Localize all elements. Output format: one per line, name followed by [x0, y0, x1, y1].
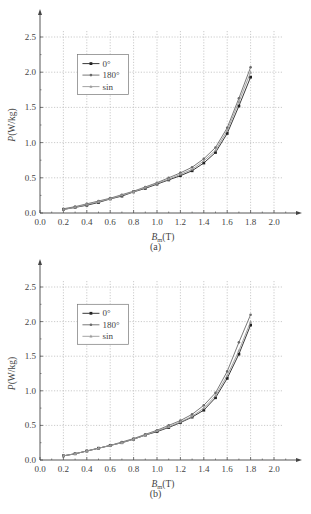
x-tick-label: 1.4 [198, 464, 210, 474]
circle-marker-icon [90, 324, 93, 327]
y-axis-arrow-icon [38, 259, 42, 265]
square-marker-icon [90, 62, 93, 65]
x-tick-label: 0.4 [81, 217, 93, 227]
legend: 0°180°sin [77, 55, 128, 95]
y-tick-label: 2.5 [25, 32, 37, 42]
legend-entry: 180° [102, 70, 120, 80]
legend-entry: 0° [102, 308, 111, 318]
x-tick-label: 2.0 [268, 464, 280, 474]
x-tick-label: 1.8 [245, 464, 257, 474]
x-tick-label: 1.6 [222, 217, 234, 227]
y-tick-label: 2.0 [25, 317, 37, 327]
chart-panel-b: 0.00.20.40.60.81.01.21.41.61.82.00.00.51… [0, 256, 311, 514]
y-tick-label: 1.0 [25, 386, 37, 396]
caption-b: (b) [0, 488, 311, 499]
x-tick-label: 0.8 [128, 217, 140, 227]
y-tick-label: 1.5 [25, 102, 37, 112]
legend-entry: sin [102, 331, 113, 341]
legend: 0°180°sin [77, 304, 128, 344]
x-tick-label: 2.0 [268, 217, 280, 227]
x-tick-label: 1.8 [245, 217, 257, 227]
axes: 0.00.20.40.60.81.01.21.41.61.82.00.00.51… [7, 9, 302, 243]
x-tick-label: 1.4 [198, 217, 210, 227]
plot-area: 0.00.20.40.60.81.01.21.41.61.82.00.00.51… [0, 256, 311, 514]
x-tick-label: 0.2 [58, 464, 69, 474]
y-axis-label: P(W/kg) [7, 108, 18, 142]
caption-a: (a) [0, 241, 311, 252]
x-tick-label: 0.0 [34, 464, 46, 474]
y-tick-label: 1.5 [25, 351, 37, 361]
y-tick-label: 0.5 [25, 173, 37, 183]
plot-area: 0.00.20.40.60.81.01.21.41.61.82.00.00.51… [0, 0, 311, 256]
y-tick-label: 0.5 [25, 420, 37, 430]
y-axis-arrow-icon [38, 9, 42, 15]
y-tick-label: 2.0 [25, 67, 37, 77]
grid [40, 281, 282, 460]
y-tick-label: 1.0 [25, 138, 37, 148]
square-marker-icon [90, 312, 93, 315]
y-tick-label: 0.0 [25, 208, 37, 218]
x-tick-label: 1.0 [151, 464, 163, 474]
legend-entry: 180° [102, 320, 120, 330]
x-tick-label: 1.0 [151, 217, 163, 227]
x-tick-label: 0.6 [105, 217, 117, 227]
axes: 0.00.20.40.60.81.01.21.41.61.82.00.00.51… [7, 259, 302, 490]
grid [40, 31, 282, 213]
x-tick-label: 0.6 [105, 464, 117, 474]
x-tick-label: 0.0 [34, 217, 46, 227]
y-axis-label: P(W/kg) [7, 357, 18, 391]
x-tick-label: 0.4 [81, 464, 93, 474]
x-tick-label: 0.8 [128, 464, 140, 474]
y-tick-label: 2.5 [25, 282, 37, 292]
x-axis-arrow-icon [296, 211, 302, 215]
x-tick-label: 0.2 [58, 217, 69, 227]
y-tick-label: 0.0 [25, 455, 37, 465]
x-tick-label: 1.2 [175, 464, 186, 474]
legend-entry: sin [102, 82, 113, 92]
x-tick-label: 1.2 [175, 217, 186, 227]
circle-marker-icon [90, 74, 93, 77]
legend-entry: 0° [102, 59, 111, 69]
x-tick-label: 1.6 [222, 464, 234, 474]
x-axis-arrow-icon [296, 458, 302, 462]
chart-panel-a: 0.00.20.40.60.81.01.21.41.61.82.00.00.51… [0, 0, 311, 256]
